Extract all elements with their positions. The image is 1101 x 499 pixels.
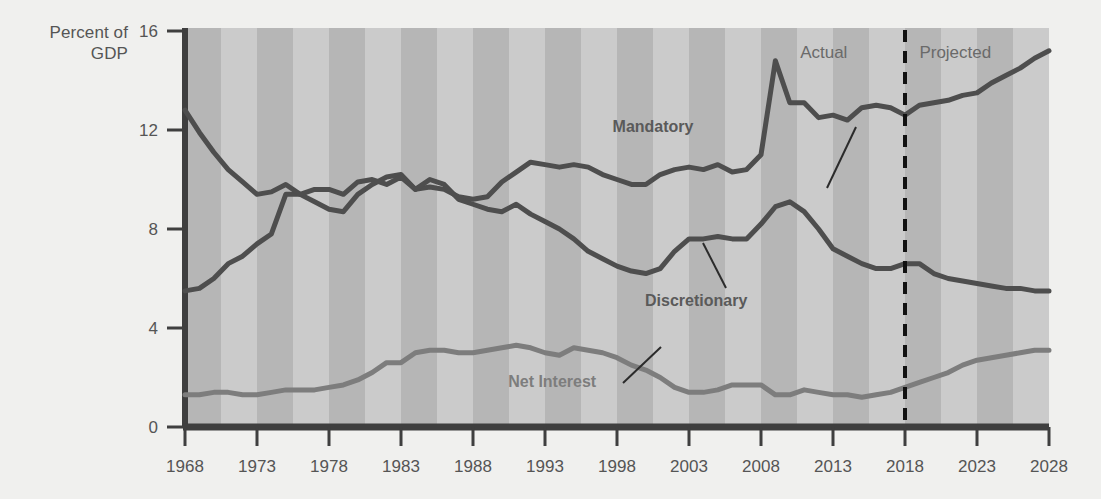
svg-text:1998: 1998	[598, 457, 636, 476]
annotation-mandatory: Mandatory	[613, 118, 694, 135]
svg-text:2008: 2008	[742, 457, 780, 476]
svg-text:1983: 1983	[382, 457, 420, 476]
svg-text:2003: 2003	[670, 457, 708, 476]
chart-container: Percent of GDP 0481216 19681973197819831…	[0, 0, 1101, 499]
svg-text:1978: 1978	[310, 457, 348, 476]
svg-text:1993: 1993	[526, 457, 564, 476]
svg-text:1988: 1988	[454, 457, 492, 476]
svg-text:8: 8	[149, 220, 158, 239]
svg-text:16: 16	[139, 22, 158, 41]
svg-text:2018: 2018	[886, 457, 924, 476]
annotation-projected: Projected	[919, 43, 991, 62]
svg-text:2028: 2028	[1030, 457, 1068, 476]
annotation-actual: Actual	[800, 43, 847, 62]
svg-text:1973: 1973	[238, 457, 276, 476]
svg-text:12: 12	[139, 121, 158, 140]
svg-text:1968: 1968	[166, 457, 204, 476]
svg-text:2013: 2013	[814, 457, 852, 476]
svg-text:0: 0	[149, 418, 158, 437]
annotation-discretionary: Discretionary	[645, 292, 747, 309]
y-axis	[167, 28, 186, 427]
svg-text:2023: 2023	[958, 457, 996, 476]
plot-background-bands	[185, 28, 1049, 427]
x-axis	[183, 427, 1049, 446]
y-axis-tick-labels: 0481216	[139, 22, 158, 437]
svg-text:4: 4	[149, 319, 158, 338]
annotation-net-interest: Net Interest	[508, 373, 597, 390]
x-axis-tick-labels: 1968197319781983198819931998200320082013…	[166, 457, 1068, 476]
expenditure-line-chart: 0481216 19681973197819831988199319982003…	[0, 0, 1101, 499]
